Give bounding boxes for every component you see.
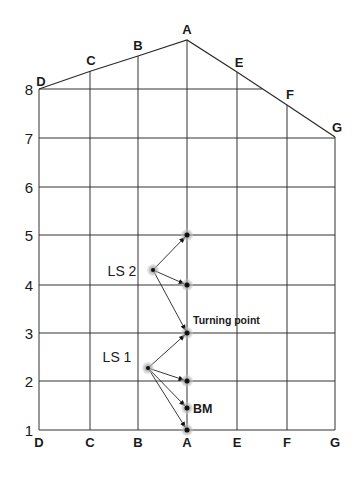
- bottom-label-D: D: [34, 435, 43, 450]
- station-point: [146, 366, 150, 370]
- station-label-LS2: LS 2: [108, 263, 137, 279]
- station-point: [151, 268, 155, 272]
- point-A5: [185, 233, 190, 238]
- bottom-label-E: E: [233, 435, 242, 450]
- sightline-LS1-A3: [148, 335, 185, 368]
- point-A3: [185, 331, 190, 336]
- top-label-D: D: [36, 74, 45, 89]
- bm-label: BM: [193, 402, 212, 416]
- sightline-LS2-A5: [153, 237, 185, 270]
- bottom-label-G: G: [330, 435, 340, 450]
- row-label-4: 4: [25, 277, 33, 294]
- row-label-5: 5: [25, 227, 33, 244]
- bottom-label-C: C: [85, 435, 95, 450]
- point-BM: [185, 406, 190, 411]
- point-A4: [185, 283, 190, 288]
- row-label-8: 8: [25, 81, 33, 98]
- sightline-LS1-A1: [148, 368, 185, 427]
- row-label-3: 3: [25, 325, 33, 342]
- top-label-A: A: [182, 22, 192, 37]
- bottom-label-B: B: [133, 435, 142, 450]
- turning-point-label: Turning point: [193, 314, 260, 326]
- top-label-B: B: [133, 38, 142, 53]
- top-label-C: C: [86, 53, 96, 68]
- row-label-1: 1: [25, 422, 33, 439]
- sightline-LS2-A3: [153, 270, 186, 330]
- top-label-G: G: [332, 120, 342, 135]
- point-A1: [185, 428, 190, 433]
- row-label-2: 2: [25, 373, 33, 390]
- row-label-7: 7: [25, 130, 33, 147]
- station-label-LS1: LS 1: [103, 349, 132, 365]
- top-label-E: E: [235, 55, 244, 70]
- top-label-F: F: [286, 87, 294, 102]
- row-label-6: 6: [25, 179, 33, 196]
- bottom-label-A: A: [182, 435, 192, 450]
- level-survey-grid-diagram: DCBAEFGDCBAEFG87654321 LS 2LS 1Turning p…: [0, 0, 359, 479]
- bottom-label-F: F: [283, 435, 291, 450]
- point-A2: [185, 379, 190, 384]
